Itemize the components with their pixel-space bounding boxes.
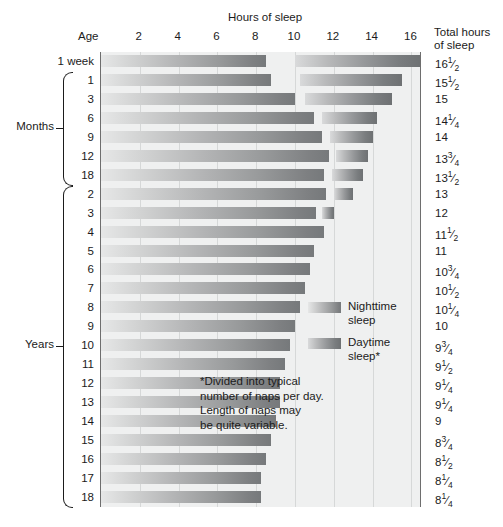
bar-nighttime-sleep — [101, 188, 326, 200]
total-hours-value: 103⁄4 — [435, 263, 459, 281]
x-tick-label-2: 2 — [136, 30, 142, 42]
total-hours-value: 10 — [435, 320, 448, 332]
age-label-5: 5 — [4, 245, 100, 257]
age-label-7: 7 — [4, 282, 100, 294]
bar-nighttime-sleep — [101, 320, 295, 332]
total-hours-fraction: 1⁄2 — [448, 58, 459, 70]
legend-swatch-daytime-sleep — [308, 338, 341, 349]
total-hours-fraction: 3⁄4 — [448, 266, 459, 278]
total-hours-fraction: 1⁄2 — [448, 285, 459, 297]
total-hours-fraction: 1⁄4 — [441, 399, 452, 411]
total-hours-value: 15 — [435, 93, 448, 105]
total-hours-fraction: 1⁄4 — [441, 494, 452, 506]
chart-row — [101, 109, 421, 128]
total-hours-fraction: 1⁄4 — [448, 304, 459, 316]
total-hours-whole: 13 — [435, 172, 448, 184]
total-hours-fraction: 1⁄4 — [441, 475, 452, 487]
bar-daytime-sleep — [336, 150, 368, 162]
legend-item-nighttime-sleep: Nighttime sleep — [308, 300, 397, 327]
bar-nighttime-sleep — [101, 358, 285, 370]
group-brace-years — [63, 186, 73, 508]
sleep-chart: Hours of sleep Age Total hours of sleep … — [0, 0, 503, 527]
age-label-18: 18 — [4, 491, 100, 503]
chart-row — [101, 128, 421, 147]
x-tick-label-6: 6 — [213, 30, 219, 42]
total-hours-value: 161⁄2 — [435, 55, 459, 73]
total-hours-fraction: 1⁄2 — [441, 456, 452, 468]
total-hours-value: 93⁄4 — [435, 339, 453, 357]
group-brace-nub-years — [56, 346, 63, 347]
total-hours-whole: 13 — [435, 188, 448, 200]
total-hours-whole: 16 — [435, 58, 448, 70]
bar-daytime-sleep — [295, 55, 421, 67]
total-hours-column: 161⁄2151⁄215141⁄414133⁄4131⁄21312111⁄211… — [424, 52, 503, 507]
total-hours-value: 81⁄4 — [435, 491, 453, 509]
footnote-text: *Divided into typical number of naps per… — [200, 374, 350, 432]
total-hours-fraction: 1⁄2 — [447, 228, 458, 240]
chart-row — [101, 52, 421, 71]
total-hours-whole: 14 — [435, 131, 448, 143]
total-hours-fraction: 1⁄2 — [441, 361, 452, 373]
total-hours-value: 83⁄4 — [435, 434, 453, 452]
bar-nighttime-sleep — [101, 131, 322, 143]
bar-nighttime-sleep — [101, 55, 266, 67]
total-hours-fraction: 1⁄2 — [448, 77, 459, 89]
bar-nighttime-sleep — [101, 434, 271, 446]
bar-daytime-sleep — [334, 188, 353, 200]
total-hours-value: 133⁄4 — [435, 150, 459, 168]
chart-row — [101, 166, 421, 185]
total-hours-value: 141⁄4 — [435, 112, 459, 130]
legend-label-daytime-sleep: Daytime sleep* — [348, 336, 390, 363]
bar-nighttime-sleep — [101, 245, 314, 257]
age-label-9: 9 — [4, 320, 100, 332]
chart-row — [101, 90, 421, 109]
bar-nighttime-sleep — [101, 207, 316, 219]
bar-nighttime-sleep — [101, 74, 271, 86]
total-hours-whole: 10 — [435, 266, 448, 278]
bar-nighttime-sleep — [101, 301, 300, 313]
bar-daytime-sleep — [332, 169, 363, 181]
bar-daytime-sleep — [322, 207, 334, 219]
age-label-1-week: 1 week — [4, 55, 100, 67]
total-hours-whole: 12 — [435, 207, 448, 219]
total-hours-value: 91⁄4 — [435, 396, 453, 414]
age-label-17: 17 — [4, 472, 100, 484]
chart-row — [101, 71, 421, 90]
total-hours-fraction: 3⁄4 — [441, 437, 452, 449]
total-hours-value: 101⁄4 — [435, 301, 459, 319]
age-label-12: 12 — [4, 377, 100, 389]
chart-row — [101, 147, 421, 166]
age-label-6: 6 — [4, 263, 100, 275]
x-tick-label-10: 10 — [288, 30, 301, 42]
age-label-14: 14 — [4, 415, 100, 427]
total-hours-fraction: 3⁄4 — [448, 153, 459, 165]
total-hours-value: 91⁄4 — [435, 377, 453, 395]
group-brace-months — [63, 72, 73, 186]
chart-row — [101, 242, 421, 261]
chart-row — [101, 488, 421, 507]
total-hours-whole: 11 — [435, 245, 447, 257]
chart-row — [101, 431, 421, 450]
bar-daytime-sleep — [330, 131, 373, 143]
age-label-11: 11 — [4, 358, 100, 370]
total-hours-value: 13 — [435, 188, 448, 200]
total-hours-whole: 15 — [435, 77, 448, 89]
bar-nighttime-sleep — [101, 472, 261, 484]
total-hours-fraction: 1⁄4 — [441, 380, 452, 392]
legend-item-daytime-sleep: Daytime sleep* — [308, 336, 390, 363]
chart-row — [101, 450, 421, 469]
total-hours-fraction: 1⁄2 — [448, 172, 459, 184]
chart-row — [101, 185, 421, 204]
total-hours-value: 101⁄2 — [435, 282, 459, 300]
age-label-8: 8 — [4, 301, 100, 313]
x-tick-label-4: 4 — [174, 30, 180, 42]
legend-swatch-nighttime-sleep — [308, 302, 341, 313]
age-label-3: 3 — [4, 93, 100, 105]
age-label-15: 15 — [4, 434, 100, 446]
bar-nighttime-sleep — [101, 112, 314, 124]
age-label-9: 9 — [4, 131, 100, 143]
total-hours-whole: 10 — [435, 320, 448, 332]
x-tick-label-12: 12 — [326, 30, 339, 42]
bar-nighttime-sleep — [101, 282, 305, 294]
chart-row — [101, 260, 421, 279]
